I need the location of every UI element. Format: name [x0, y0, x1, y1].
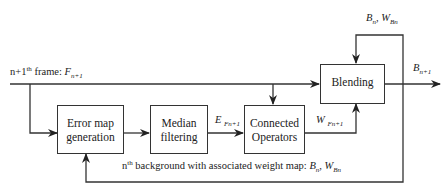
connected-operators-block: Connected Operators [244, 105, 305, 154]
connected-label-line2: Operators [250, 130, 299, 144]
top-feedback-label: Bn, WBn [366, 12, 398, 24]
input-prefix: n+1 [10, 66, 26, 77]
error-map-label-line2: generation [66, 130, 115, 144]
blending-block: Blending [320, 64, 385, 104]
input-to-error-map-arrow [30, 84, 57, 133]
top-w-sub: Bn [390, 18, 398, 26]
error-map-label-line1: Error map [66, 116, 115, 130]
input-sub: n+1 [71, 72, 83, 80]
error-map-output-label: E Fn+1 [215, 114, 240, 126]
error-map-generation-block: Error map generation [57, 105, 124, 154]
top-w: W [381, 12, 390, 23]
bottom-w-sub: Bn [333, 166, 341, 174]
error-var: E [215, 114, 221, 125]
weight-var: W [316, 114, 325, 125]
input-mid: frame: [32, 66, 65, 77]
median-filtering-block: Median filtering [150, 105, 208, 154]
output-sub: n+1 [419, 68, 431, 76]
weight-sub: Fn+1 [327, 120, 343, 128]
background-feedback-label: nth background with associated weight ma… [122, 160, 341, 172]
error-sub: Fn+1 [224, 120, 240, 128]
output-label: Bn+1 [413, 62, 431, 74]
connected-label-line1: Connected [250, 116, 299, 130]
median-label-line1: Median [160, 116, 197, 130]
input-frame-label: n+1th frame: Fn+1 [10, 66, 83, 78]
weight-map-label: W Fn+1 [316, 114, 343, 126]
bottom-text: background with associated weight map: [133, 160, 310, 171]
blending-label: Blending [331, 75, 373, 89]
median-label-line2: filtering [160, 130, 197, 144]
